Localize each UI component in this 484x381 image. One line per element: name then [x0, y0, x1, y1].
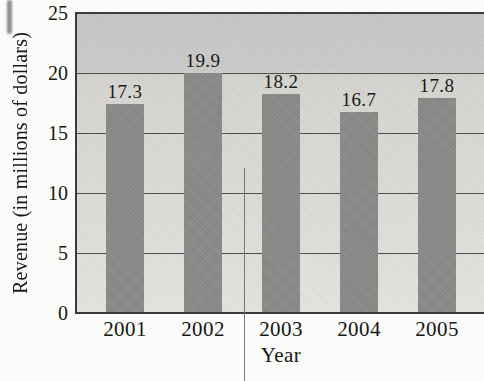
y-axis-title: Revenue (in millions of dollars)	[3, 12, 37, 314]
y-tick-label: 15	[26, 120, 68, 146]
revenue-bar-chart: Revenue (in millions of dollars) 25 20 1…	[0, 0, 484, 381]
x-tick-label: 2002	[181, 317, 225, 342]
bar-2002	[184, 73, 222, 312]
bar-value-label: 17.3	[108, 80, 143, 104]
y-tick-label: 25	[26, 0, 68, 26]
bar-value-label: 17.8	[420, 74, 455, 98]
bar-value-label: 18.2	[264, 70, 299, 94]
y-tick-label: 10	[26, 180, 68, 206]
y-tick-label: 0	[26, 300, 68, 326]
x-tick-label: 2003	[259, 317, 303, 342]
bar-2001	[106, 104, 144, 312]
x-tick-label: 2005	[415, 317, 459, 342]
plot-area	[75, 12, 484, 314]
x-tick-label: 2004	[337, 317, 381, 342]
y-tick-label: 5	[26, 240, 68, 266]
y-tick-label: 20	[26, 60, 68, 86]
bar-2004	[340, 112, 378, 312]
bar-2003	[262, 94, 300, 312]
x-tick-label: 2001	[103, 317, 147, 342]
x-axis-title: Year	[261, 343, 301, 368]
bar-2005	[418, 98, 456, 312]
bar-value-label: 19.9	[186, 49, 221, 73]
bar-value-label: 16.7	[342, 88, 377, 112]
scan-line-artifact	[244, 168, 245, 381]
